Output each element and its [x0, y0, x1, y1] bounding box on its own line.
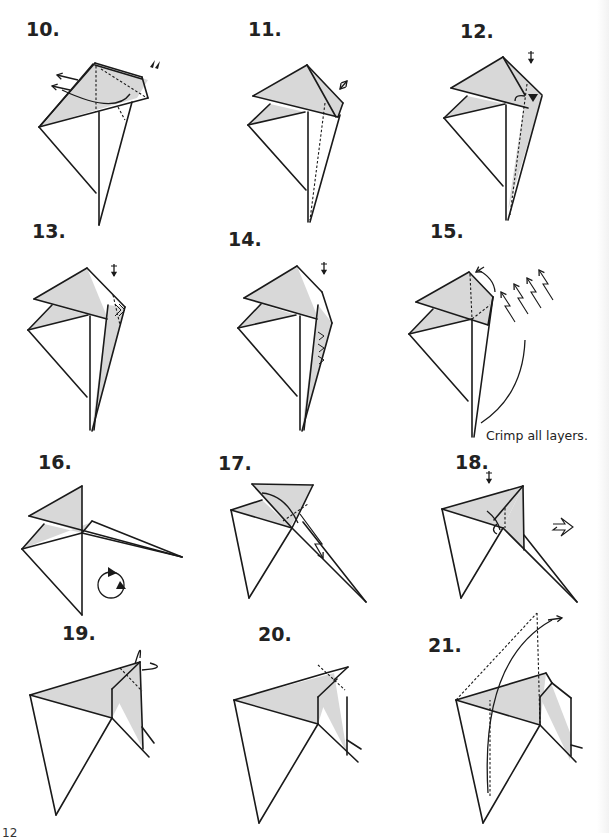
sawtooth-arrow-icon — [527, 278, 541, 308]
step-18 — [442, 471, 577, 602]
page-number: 12 — [2, 826, 17, 840]
step-21 — [456, 613, 582, 823]
step-number: 18. — [455, 451, 489, 473]
open-arrow-icon — [57, 73, 78, 80]
step-10 — [39, 60, 160, 225]
updown-arrow-icon — [528, 51, 534, 64]
step-12 — [444, 51, 542, 220]
step-number: 12. — [460, 20, 494, 42]
step-11 — [248, 65, 347, 222]
step-caption: Crimp all layers. — [486, 428, 588, 443]
dbl-arrow-icon — [340, 81, 347, 89]
step-20 — [234, 665, 361, 823]
step-16 — [22, 486, 182, 615]
step-13 — [28, 264, 125, 431]
sawtooth-arrow-icon — [501, 292, 515, 322]
updown-arrow-icon — [111, 264, 117, 277]
step-number: 21. — [428, 634, 462, 656]
step-number: 14. — [228, 228, 262, 250]
updown-arrow-icon — [321, 262, 327, 275]
step-14 — [238, 262, 332, 431]
step-number: 15. — [430, 220, 464, 242]
step-number: 10. — [26, 18, 60, 40]
step-number: 16. — [38, 451, 72, 473]
step-number: 13. — [32, 220, 66, 242]
sawtooth-arrow-icon — [514, 284, 528, 314]
open-arrow-icon — [52, 84, 70, 90]
step-number: 20. — [258, 623, 292, 645]
step-17 — [231, 484, 366, 602]
zigzag-arrow-icon — [300, 514, 323, 558]
step-number: 19. — [62, 622, 96, 644]
sawtooth-arrow-icon — [539, 270, 553, 300]
step-19 — [30, 650, 157, 815]
hollow-right-arrow-icon — [553, 518, 573, 536]
page-edge-shadow — [597, 0, 609, 833]
step-number: 11. — [248, 18, 282, 40]
step-15 — [409, 267, 553, 437]
rotate-arrow-icon — [98, 567, 126, 598]
double-tick-mark-icon — [150, 60, 160, 69]
step-number: 17. — [218, 452, 252, 474]
